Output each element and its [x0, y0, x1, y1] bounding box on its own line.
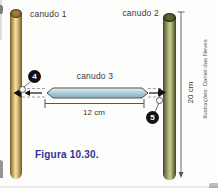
dashed-guides-left	[22, 89, 47, 98]
marker-4-badge: 4	[28, 70, 41, 83]
straw-1	[10, 13, 22, 179]
illustration-credit: Ilustrações: Daniel das Neves	[202, 29, 208, 129]
dashed-guides-right	[148, 89, 163, 98]
straw-1-top-opening	[10, 9, 22, 18]
physics-figure: canudo 1 canudo 2 canudo 3 4 5 12 cm 20 …	[0, 0, 218, 188]
measure-20cm-arrow-icon	[179, 172, 184, 178]
straw-1-label: canudo 1	[30, 9, 67, 19]
measurement-12cm-label: 12 cm	[80, 108, 108, 117]
measure-line-20cm	[178, 12, 185, 176]
measurement-20cm-label: 20 cm	[186, 78, 195, 108]
straw-3	[47, 88, 148, 98]
scan-artifact-bottom-right	[209, 183, 218, 188]
straw-2	[163, 17, 176, 180]
leader-line-4	[24, 82, 30, 87]
straw-2-label: canudo 2	[115, 8, 159, 18]
measure-line-12cm	[45, 99, 144, 108]
arrow-left-head-icon	[25, 90, 31, 96]
straw-2-top-opening	[163, 13, 176, 22]
scan-artifact-bottom-left	[0, 160, 3, 178]
scan-artifact-bottom	[0, 186, 218, 188]
leader-line-5	[155, 103, 159, 112]
scan-artifact-left-blob	[0, 5, 3, 14]
knot-ring-right-icon	[157, 98, 163, 104]
figure-caption: Figura 10.30.	[35, 149, 99, 160]
straw-3-label: canudo 3	[67, 71, 123, 81]
marker-5-badge: 5	[146, 111, 159, 124]
